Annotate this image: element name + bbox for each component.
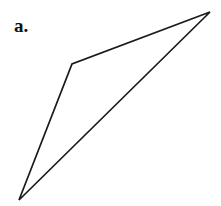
quadrilateral-shape <box>19 12 210 200</box>
geometry-figure-svg <box>0 0 221 206</box>
figure-canvas: a. <box>0 0 221 206</box>
figure-label: a. <box>14 16 28 35</box>
